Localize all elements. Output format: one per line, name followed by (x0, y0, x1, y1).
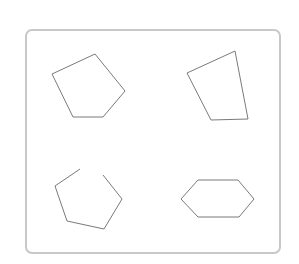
diagram-canvas (0, 0, 299, 264)
rounded-frame (26, 30, 280, 253)
